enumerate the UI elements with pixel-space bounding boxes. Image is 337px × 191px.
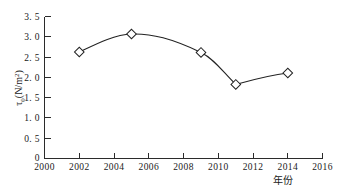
- y-tick-labels: 3. 5 3. 0 2. 5 2. 0 1. 5 1. 0 0. 5 0: [24, 12, 40, 163]
- data-point-2005[interactable]: [127, 29, 137, 39]
- y-axis-title-units: (N/m: [13, 77, 25, 98]
- x-tick-label-2016: 2016: [312, 162, 333, 172]
- y-tick-label-2-5: 2. 5: [24, 53, 40, 63]
- x-tick-label-2014: 2014: [277, 162, 298, 172]
- y-tick-label-0-5: 0. 5: [24, 134, 40, 144]
- y-tick-label-2-0: 2. 0: [24, 73, 40, 83]
- y-tick-label-3-5: 3. 5: [24, 12, 40, 22]
- chart-container: 3. 5 3. 0 2. 5 2. 0 1. 5 1. 0 0. 5 0 200…: [0, 0, 337, 191]
- data-point-2014[interactable]: [283, 68, 293, 78]
- data-point-2009[interactable]: [196, 48, 206, 58]
- y-tick-marks: [45, 17, 51, 139]
- axes-group: [45, 17, 323, 159]
- x-tick-label-2008: 2008: [173, 162, 194, 172]
- y-tick-label-3-0: 3. 0: [24, 32, 40, 42]
- y-tick-label-1-5: 1. 5: [24, 93, 40, 103]
- x-tick-labels: 2000 2002 2004 2006 2008 2010 2012 2014 …: [34, 162, 333, 172]
- series-markers: [74, 29, 292, 89]
- data-point-2002[interactable]: [74, 47, 84, 57]
- series-line-tau0: [79, 34, 287, 84]
- y-axis-title-units-close: ): [13, 70, 25, 73]
- x-tick-marks: [79, 153, 322, 159]
- y-tick-label-1-0: 1. 0: [24, 113, 40, 123]
- x-tick-label-2010: 2010: [208, 162, 229, 172]
- x-tick-label-2000: 2000: [34, 162, 55, 172]
- line-chart-plot: 3. 5 3. 0 2. 5 2. 0 1. 5 1. 0 0. 5 0 200…: [0, 0, 337, 191]
- x-tick-label-2012: 2012: [243, 162, 264, 172]
- x-tick-label-2004: 2004: [104, 162, 125, 172]
- x-axis-title: 年份: [273, 174, 293, 186]
- x-tick-label-2002: 2002: [69, 162, 90, 172]
- x-tick-label-2006: 2006: [138, 162, 159, 172]
